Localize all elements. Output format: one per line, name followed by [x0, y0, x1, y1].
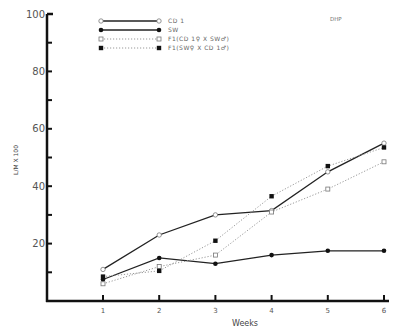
legend-label: F1(SW♀ X CD 1♂)	[168, 44, 229, 51]
legend-label: SW	[168, 26, 179, 33]
open-circle-marker	[157, 233, 161, 237]
legend-entry: SW	[99, 26, 179, 33]
legend-entry: CD 1	[99, 17, 185, 24]
legend-entry: F1(SW♀ X CD 1♂)	[99, 44, 230, 51]
filled-circle-marker	[382, 248, 387, 253]
y-tick-label: 80	[32, 66, 45, 77]
open-circle-marker	[213, 213, 217, 217]
open-square-marker	[157, 37, 161, 41]
x-tick-label: 6	[382, 307, 387, 315]
open-square-marker	[270, 210, 274, 214]
open-square-marker	[213, 253, 217, 257]
open-square-marker	[99, 37, 103, 41]
legend: CD 1SWF1(CD 1♀ X SW♂)F1(SW♀ X CD 1♂)	[99, 17, 230, 51]
open-circle-marker	[157, 19, 161, 23]
filled-square-marker	[269, 194, 273, 198]
data-series	[101, 141, 387, 286]
axes: 20406080100123456	[26, 9, 389, 316]
open-circle-marker	[101, 267, 105, 271]
filled-square-marker	[382, 145, 386, 149]
y-tick-label: 100	[26, 9, 45, 20]
filled-square-marker	[326, 164, 330, 168]
series-line	[101, 248, 387, 281]
y-tick-label: 60	[32, 123, 45, 134]
line-chart: 20406080100123456 CD 1SWF1(CD 1♀ X SW♂)F…	[0, 0, 396, 336]
open-square-marker	[157, 265, 161, 269]
x-tick-label: 1	[101, 307, 105, 315]
legend-entry: F1(CD 1♀ X SW♂)	[99, 35, 229, 42]
open-circle-marker	[99, 19, 103, 23]
legend-label: F1(CD 1♀ X SW♂)	[168, 35, 229, 42]
open-square-marker	[382, 160, 386, 164]
series-line	[101, 160, 386, 286]
filled-circle-marker	[157, 256, 162, 261]
open-square-marker	[101, 282, 105, 286]
filled-square-marker	[157, 269, 161, 273]
filled-square-marker	[157, 46, 161, 50]
x-tick-label: 2	[157, 307, 161, 315]
filled-circle-marker	[213, 261, 218, 266]
series-line	[101, 141, 386, 272]
legend-label: CD 1	[168, 17, 185, 24]
open-circle-marker	[326, 170, 330, 174]
y-tick-label: 40	[32, 181, 45, 192]
filled-circle-marker	[269, 253, 274, 258]
x-tick-label: 3	[213, 307, 217, 315]
x-tick-label: 5	[326, 307, 330, 315]
open-circle-marker	[382, 141, 386, 145]
filled-circle-marker	[157, 28, 162, 33]
y-tick-label: 20	[32, 238, 45, 249]
filled-circle-marker	[99, 28, 104, 33]
y-axis-title: L/M X 100	[12, 145, 19, 175]
open-square-marker	[326, 187, 330, 191]
x-axis-title: Weeks	[232, 319, 258, 328]
x-tick-label: 4	[269, 307, 274, 315]
filled-square-marker	[101, 274, 105, 278]
filled-square-marker	[99, 46, 103, 50]
filled-square-marker	[213, 239, 217, 243]
filled-circle-marker	[326, 248, 331, 253]
chart-annotation: DHP	[330, 16, 342, 22]
